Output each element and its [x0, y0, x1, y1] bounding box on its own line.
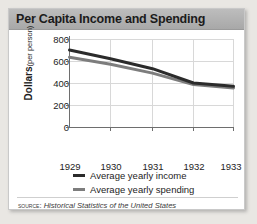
- chart-legend: Average yearly income Average yearly spe…: [73, 169, 194, 197]
- page-title: Per Capita Income and Spending: [16, 12, 205, 26]
- line-swatch-icon: [73, 188, 85, 191]
- axis-lines: [69, 36, 234, 128]
- source-divider: [17, 197, 238, 198]
- legend-label-spending: Average yearly spending: [90, 184, 194, 195]
- plot-area: Dollars(per person) 800 600 400 200 0: [9, 30, 244, 155]
- line-chart-svg: [9, 30, 245, 155]
- source-note: SOURCE: Historical Statistics of the Uni…: [18, 201, 176, 210]
- legend-label-income: Average yearly income: [90, 170, 186, 181]
- legend-item-spending: Average yearly spending: [73, 183, 194, 195]
- chart-figure-page: Per Capita Income and Spending Dollars(p…: [0, 0, 257, 224]
- figure-card: Per Capita Income and Spending Dollars(p…: [8, 8, 245, 210]
- x-tick-1933: 1933: [220, 161, 241, 172]
- line-swatch-icon: [73, 174, 85, 177]
- legend-item-income: Average yearly income: [73, 169, 194, 181]
- source-key: SOURCE:: [18, 201, 42, 210]
- series-line-income: [70, 50, 234, 86]
- source-value: Historical Statistics of the United Stat…: [44, 201, 177, 210]
- figure-title-band: Per Capita Income and Spending: [9, 9, 244, 30]
